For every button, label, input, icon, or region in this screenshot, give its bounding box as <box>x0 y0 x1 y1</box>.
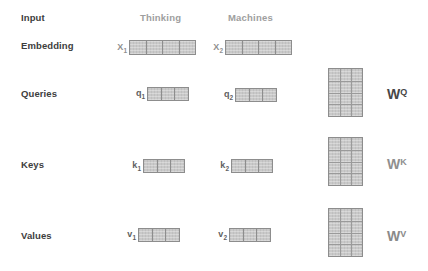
row-label-queries: Queries <box>21 88 57 99</box>
matrix-cell <box>275 41 292 54</box>
matrix-cell <box>329 69 340 81</box>
matrix-cell <box>174 88 188 100</box>
matrix-cell <box>340 93 351 105</box>
row-label-values: Values <box>21 230 52 241</box>
matrix-cell <box>236 89 249 101</box>
matrix-cell <box>130 41 146 54</box>
vector-x1: X1 <box>112 40 196 55</box>
matrix-cell <box>329 150 340 162</box>
matrix-cell <box>165 229 179 241</box>
vector-x2-cells <box>225 40 292 55</box>
self-attention-diagram: Input Embedding Queries Keys Values Thin… <box>0 0 428 271</box>
vector-x2: X2 <box>208 40 292 55</box>
matrix-cell <box>258 41 275 54</box>
row-label-input: Input <box>21 12 45 23</box>
matrix-cell <box>340 173 351 185</box>
row-label-keys: Keys <box>21 159 44 170</box>
matrix-cell <box>351 150 362 162</box>
matrix-cell <box>245 160 259 172</box>
row-label-embedding: Embedding <box>21 40 74 51</box>
matrix-cell <box>351 173 362 185</box>
column-header-machines: Machines <box>228 12 273 23</box>
vector-v2-cells <box>229 228 271 242</box>
matrix-cell <box>258 160 272 172</box>
matrix-cell <box>232 160 245 172</box>
matrix-cell <box>351 69 362 81</box>
matrix-cell <box>340 233 351 245</box>
weight-matrix-wq <box>328 68 363 117</box>
matrix-cell <box>157 160 171 172</box>
vector-k2: k2 <box>215 159 273 173</box>
vector-q2-cells <box>235 88 277 102</box>
matrix-cell <box>161 88 175 100</box>
matrix-cell <box>329 93 340 105</box>
matrix-cell <box>340 162 351 174</box>
matrix-cell <box>329 162 340 174</box>
matrix-cell <box>139 229 152 241</box>
matrix-cell <box>329 138 340 150</box>
vector-q2: q2 <box>219 88 277 102</box>
weight-matrix-wk <box>328 137 363 186</box>
matrix-cell <box>170 160 184 172</box>
matrix-cell <box>329 233 340 245</box>
matrix-cell <box>329 221 340 233</box>
vector-k1-cells <box>143 159 185 173</box>
matrix-cell <box>351 221 362 233</box>
vector-q1: q1 <box>131 87 189 101</box>
matrix-cell <box>329 81 340 93</box>
matrix-cell <box>351 233 362 245</box>
matrix-cell <box>230 229 243 241</box>
matrix-cell <box>226 41 242 54</box>
vector-x1-cells <box>129 40 196 55</box>
matrix-cell <box>329 209 340 221</box>
matrix-cell <box>340 244 351 256</box>
matrix-cell <box>351 93 362 105</box>
matrix-cell <box>340 221 351 233</box>
matrix-cell <box>340 138 351 150</box>
weight-matrix-wv <box>328 208 363 257</box>
matrix-cell <box>351 138 362 150</box>
matrix-cell <box>329 244 340 256</box>
matrix-cell <box>144 160 157 172</box>
vector-v2-label: v2 <box>213 229 227 241</box>
column-header-thinking: Thinking <box>140 12 181 23</box>
matrix-cell <box>243 229 257 241</box>
matrix-cell <box>329 104 340 116</box>
matrix-cell <box>262 89 276 101</box>
weight-matrix-wk-label: WK <box>387 156 407 172</box>
vector-v1-label: v1 <box>122 229 136 241</box>
matrix-cell <box>340 150 351 162</box>
weight-matrix-wq-label: WQ <box>387 86 407 102</box>
vector-v1: v1 <box>122 228 180 242</box>
matrix-cell <box>351 104 362 116</box>
vector-k2-label: k2 <box>215 160 229 172</box>
vector-x2-label: X2 <box>208 42 223 54</box>
matrix-cell <box>242 41 259 54</box>
vector-x1-label: X1 <box>112 42 127 54</box>
matrix-cell <box>340 104 351 116</box>
vector-q1-label: q1 <box>131 88 145 100</box>
matrix-cell <box>351 209 362 221</box>
vector-v1-cells <box>138 228 180 242</box>
matrix-cell <box>329 173 340 185</box>
matrix-cell <box>256 229 270 241</box>
matrix-cell <box>340 209 351 221</box>
matrix-cell <box>351 81 362 93</box>
vector-q2-label: q2 <box>219 89 233 101</box>
vector-k1: k1 <box>127 159 185 173</box>
matrix-cell <box>340 81 351 93</box>
vector-k2-cells <box>231 159 273 173</box>
matrix-cell <box>148 88 161 100</box>
vector-v2: v2 <box>213 228 271 242</box>
matrix-cell <box>179 41 196 54</box>
matrix-cell <box>351 162 362 174</box>
vector-k1-label: k1 <box>127 160 141 172</box>
matrix-cell <box>351 244 362 256</box>
matrix-cell <box>152 229 166 241</box>
matrix-cell <box>146 41 163 54</box>
matrix-cell <box>340 69 351 81</box>
matrix-cell <box>162 41 179 54</box>
matrix-cell <box>249 89 263 101</box>
weight-matrix-wv-label: WV <box>387 228 406 244</box>
vector-q1-cells <box>147 87 189 101</box>
